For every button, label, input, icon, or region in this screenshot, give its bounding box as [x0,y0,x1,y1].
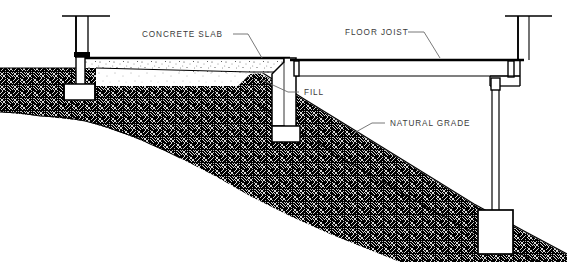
diagram-canvas: CONCRETE SLAB FLOOR JOIST FILL NATURAL G… [0,0,567,262]
label-fill: FILL [304,88,324,97]
right-pier [491,78,500,212]
pier-footing [478,210,513,254]
floor-joist-beam [290,60,524,86]
label-floor-joist: FLOOR JOIST [345,28,409,37]
section-drawing: CONCRETE SLAB FLOOR JOIST FILL NATURAL G… [0,0,567,262]
label-concrete-slab: CONCRETE SLAB [142,30,223,39]
right-upper-wall [505,16,552,60]
label-natural-grade: NATURAL GRADE [390,119,470,128]
